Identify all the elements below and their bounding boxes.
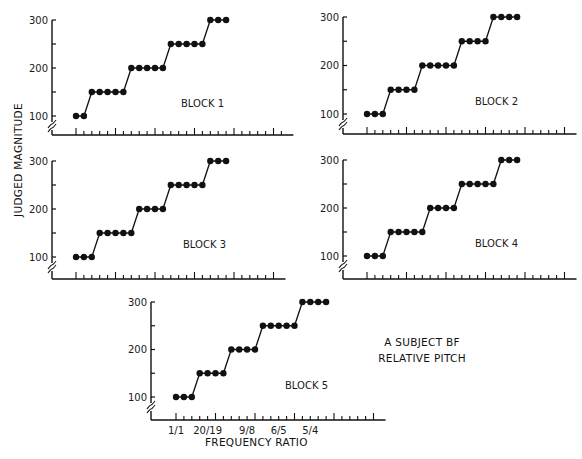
data-point bbox=[173, 394, 179, 400]
data-point bbox=[144, 206, 150, 212]
data-point bbox=[427, 62, 433, 68]
x-tick-label: 9/8 bbox=[239, 425, 255, 436]
block-title: BLOCK 4 bbox=[475, 238, 518, 249]
plots-canvas: 300200100BLOCK 1300200100BLOCK 230020010… bbox=[0, 0, 582, 459]
data-point bbox=[419, 62, 425, 68]
figure: 300200100BLOCK 1300200100BLOCK 230020010… bbox=[0, 0, 582, 459]
panel-block-4: 300200100BLOCK 4 bbox=[320, 155, 577, 280]
y-axis-label: JUDGED MAGNITUDE bbox=[12, 90, 24, 230]
data-point bbox=[189, 394, 195, 400]
data-point bbox=[482, 181, 488, 187]
data-point bbox=[514, 157, 520, 163]
panel-block-1: 300200100BLOCK 1 bbox=[29, 15, 293, 136]
x-tick-label: 1/1 bbox=[168, 425, 184, 436]
y-tick-label: 100 bbox=[320, 251, 339, 262]
annotation-condition: RELATIVE PITCH bbox=[362, 350, 482, 366]
data-point bbox=[498, 14, 504, 20]
data-point bbox=[268, 323, 274, 329]
data-point bbox=[291, 323, 297, 329]
data-point bbox=[364, 111, 370, 117]
data-point bbox=[144, 65, 150, 71]
y-tick-label: 200 bbox=[128, 344, 147, 355]
block-title: BLOCK 3 bbox=[183, 239, 226, 250]
y-tick-label: 300 bbox=[29, 15, 48, 26]
data-point bbox=[128, 65, 134, 71]
data-point bbox=[207, 17, 213, 23]
data-point bbox=[215, 17, 221, 23]
data-point bbox=[451, 205, 457, 211]
data-point bbox=[207, 158, 213, 164]
panel-block-2: 300200100BLOCK 2 bbox=[320, 12, 577, 135]
data-point bbox=[191, 41, 197, 47]
data-point bbox=[81, 113, 87, 119]
data-point bbox=[220, 370, 226, 376]
block-title: BLOCK 5 bbox=[285, 380, 328, 391]
data-point bbox=[514, 14, 520, 20]
data-point bbox=[443, 62, 449, 68]
data-point bbox=[467, 38, 473, 44]
y-tick-label: 200 bbox=[320, 60, 339, 71]
data-point bbox=[276, 323, 282, 329]
data-point bbox=[120, 89, 126, 95]
data-point bbox=[168, 41, 174, 47]
data-point bbox=[474, 38, 480, 44]
data-point bbox=[128, 230, 134, 236]
y-tick-label: 200 bbox=[320, 203, 339, 214]
y-tick-label: 300 bbox=[320, 155, 339, 166]
data-point bbox=[73, 113, 79, 119]
data-point bbox=[168, 182, 174, 188]
panel-block-3: 300200100BLOCK 3 bbox=[29, 156, 286, 280]
data-point bbox=[97, 230, 103, 236]
data-point bbox=[467, 181, 473, 187]
y-tick-label: 300 bbox=[29, 156, 48, 167]
data-point bbox=[451, 62, 457, 68]
data-point bbox=[89, 89, 95, 95]
data-point bbox=[482, 38, 488, 44]
y-tick-label: 100 bbox=[29, 111, 48, 122]
data-point bbox=[183, 41, 189, 47]
y-tick-label: 300 bbox=[320, 12, 339, 23]
data-point bbox=[403, 229, 409, 235]
data-point bbox=[104, 89, 110, 95]
block-title: BLOCK 1 bbox=[181, 98, 224, 109]
data-point bbox=[506, 14, 512, 20]
x-axis-label: FREQUENCY RATIO bbox=[205, 436, 308, 448]
data-point bbox=[380, 111, 386, 117]
data-point bbox=[199, 41, 205, 47]
data-point bbox=[395, 229, 401, 235]
data-point bbox=[435, 62, 441, 68]
data-point bbox=[498, 157, 504, 163]
data-point bbox=[104, 230, 110, 236]
data-point bbox=[411, 87, 417, 93]
data-point bbox=[160, 206, 166, 212]
data-point bbox=[160, 65, 166, 71]
data-point bbox=[459, 181, 465, 187]
data-point bbox=[260, 323, 266, 329]
data-point bbox=[411, 229, 417, 235]
data-point bbox=[199, 182, 205, 188]
data-point bbox=[372, 111, 378, 117]
data-point bbox=[97, 89, 103, 95]
x-tick-label: 5/4 bbox=[302, 425, 318, 436]
x-tick-label: 6/5 bbox=[271, 425, 287, 436]
data-point bbox=[176, 182, 182, 188]
y-tick-label: 200 bbox=[29, 63, 48, 74]
data-point bbox=[136, 206, 142, 212]
data-point bbox=[307, 299, 313, 305]
data-point bbox=[419, 229, 425, 235]
data-point bbox=[223, 158, 229, 164]
data-point bbox=[443, 205, 449, 211]
data-point bbox=[215, 158, 221, 164]
data-point bbox=[388, 229, 394, 235]
annotation: A SUBJECT BF RELATIVE PITCH bbox=[362, 334, 482, 366]
data-point bbox=[223, 17, 229, 23]
y-tick-label: 300 bbox=[128, 297, 147, 308]
y-tick-label: 100 bbox=[320, 109, 339, 120]
data-point bbox=[380, 253, 386, 259]
data-point bbox=[403, 87, 409, 93]
panel-block-5: 300200100BLOCK 51/120/199/86/55/4 bbox=[128, 297, 386, 437]
data-point bbox=[176, 41, 182, 47]
data-point bbox=[244, 346, 250, 352]
data-point bbox=[236, 346, 242, 352]
data-point bbox=[435, 205, 441, 211]
